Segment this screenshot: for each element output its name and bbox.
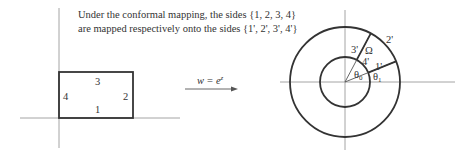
side-1-label: 1 [95, 104, 100, 115]
arrow-head-icon [231, 87, 238, 92]
diagram-canvas: 3 4 2 1 w=ez 3' 2' Ω 4' 1' θ0 θ1 [0, 0, 471, 154]
side-3prime-label: 3' [351, 44, 358, 55]
w-plane: 3' 2' Ω 4' 1' θ0 θ1 [280, 10, 455, 150]
region-omega-label: Ω [365, 45, 373, 56]
side-2prime-label: 2' [386, 34, 393, 45]
theta0-label: θ0 [354, 69, 363, 82]
mapping-label: w=ez [197, 74, 224, 86]
side-4prime-label: 4' [362, 56, 369, 67]
side-3-label: 3 [95, 76, 100, 87]
side-4-label: 4 [63, 91, 69, 102]
z-plane: 3 4 2 1 [20, 8, 180, 148]
side-2-label: 2 [123, 91, 128, 102]
mapping-arrow: w=ez [185, 74, 238, 92]
